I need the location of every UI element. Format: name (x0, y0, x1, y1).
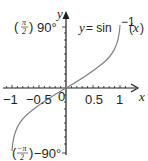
y-axis (62, 11, 70, 155)
top-radian-numerator: π (22, 18, 27, 27)
equation-label: y = sin −1 ( x ) (77, 15, 144, 35)
eq-x: x (132, 20, 139, 35)
x-tick-label-0: 0 (58, 89, 65, 104)
y-top-label: ( π 2 ) 90° (14, 18, 57, 36)
y-bottom-label: ( −π 2 ) −90° (12, 144, 61, 161)
x-axis-label: x (138, 89, 145, 104)
x-tick-label-05: 0.5 (85, 92, 103, 107)
y-axis-arrow-icon (63, 11, 70, 19)
x-tick-label-neg05: −0.5 (26, 92, 52, 107)
bottom-radian-numerator: −π (17, 144, 27, 153)
x-tick-label-1: 1 (116, 92, 123, 107)
bottom-degree-value: −90° (34, 146, 61, 161)
paren-close: ) (29, 19, 33, 34)
paren-close: ) (29, 145, 33, 160)
bottom-radian-denominator: 2 (20, 153, 24, 161)
top-radian-denominator: 2 (22, 27, 26, 36)
eq-y: y (77, 20, 85, 35)
chart-canvas: x y −1 −0.5 0 0.5 1 ( π 2 ) 90° ( −π 2 )… (0, 0, 148, 161)
eq-close-paren: ) (140, 21, 144, 35)
x-tick-label-neg1: −1 (3, 92, 18, 107)
y-axis-label: y (55, 6, 63, 21)
eq-mid: = sin (86, 21, 112, 35)
paren-open: ( (14, 19, 19, 34)
top-degree-value: 90° (37, 20, 57, 35)
